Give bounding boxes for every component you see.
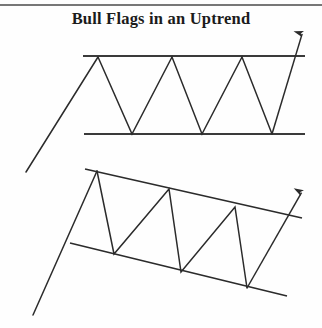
bull-flag-diagram [0, 0, 322, 328]
figure-canvas: Bull Flags in an Uptrend [0, 0, 322, 328]
lower-resistance-boundary [85, 169, 302, 218]
upper-flagpole-uptrend-line [26, 57, 98, 172]
upper-price-zigzag [98, 57, 272, 134]
lower-flagpole-uptrend-line [33, 171, 97, 315]
pattern-lower-sloping-flag [33, 169, 302, 315]
pattern-upper-horizontal-flag [26, 34, 305, 172]
upper-breakout-arrow [272, 34, 302, 134]
